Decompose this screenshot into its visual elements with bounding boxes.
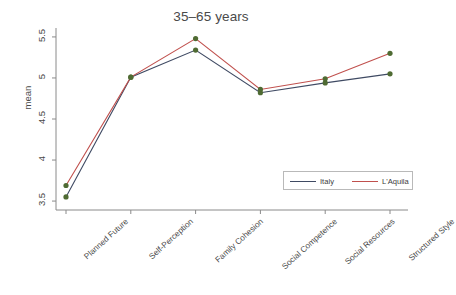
data-point xyxy=(193,47,198,52)
legend-swatch-laquila xyxy=(352,181,378,182)
data-point xyxy=(258,87,263,92)
data-point xyxy=(323,76,328,81)
legend-label-laquila: L'Aquila xyxy=(382,177,409,186)
series-line-l-aquila xyxy=(66,39,390,186)
legend-item-italy[interactable]: Italy xyxy=(290,172,334,191)
data-point xyxy=(63,194,68,199)
data-point xyxy=(63,183,68,188)
legend-swatch-italy xyxy=(290,181,316,182)
legend-label-italy: Italy xyxy=(320,177,334,186)
legend: Italy L'Aquila xyxy=(283,171,413,190)
legend-item-laquila[interactable]: L'Aquila xyxy=(352,172,409,191)
data-point xyxy=(387,71,392,76)
data-point xyxy=(193,36,198,41)
data-point xyxy=(128,75,133,80)
data-point xyxy=(387,51,392,56)
